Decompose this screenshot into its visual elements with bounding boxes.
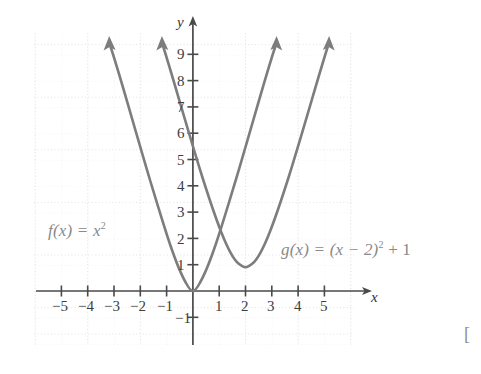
curve-label-f-exponent: 2	[101, 220, 106, 231]
y-tick-label-4: 4	[177, 179, 185, 194]
curve-label-f-head: f(x) = x	[48, 221, 101, 240]
curve-label-g-tail: + 1	[384, 240, 411, 259]
x-tick-label-2: 2	[241, 299, 249, 314]
y-tick-label-3: 3	[177, 205, 185, 220]
curve-label-g: g(x) = (x − 2)2 + 1	[281, 241, 411, 258]
x-tick-label--1: −1	[157, 299, 173, 314]
curve-label-g-head: g(x) = (x − 2)	[281, 240, 378, 259]
x-axis-label: x	[371, 290, 378, 305]
x-tick-label--4: −4	[78, 299, 94, 314]
y-tick-label-2: 2	[177, 232, 185, 247]
x-tick-label--2: −2	[130, 299, 146, 314]
x-tick-label--3: −3	[104, 299, 120, 314]
y-tick-label-6: 6	[177, 126, 185, 141]
y-tick-label-9: 9	[177, 47, 185, 62]
page-bracket-mark: [	[464, 325, 470, 343]
graph-figure: y x −5 −4 −3 −2 −1 1 2 3 4 5 −1 1 2 3 4 …	[0, 0, 481, 374]
y-tick-label-1: 1	[177, 258, 185, 273]
x-tick-label-5: 5	[320, 299, 328, 314]
x-tick-label-3: 3	[267, 299, 275, 314]
x-tick-label-1: 1	[215, 299, 223, 314]
x-tick-label-4: 4	[294, 299, 302, 314]
coordinate-plane-svg	[0, 0, 481, 374]
y-tick-label-8: 8	[177, 74, 185, 89]
y-tick-label-5: 5	[177, 153, 185, 168]
x-tick-label--5: −5	[52, 299, 68, 314]
y-tick-label-7: 7	[177, 100, 185, 115]
y-tick-label--1: −1	[175, 311, 191, 326]
curve-label-f: f(x) = x2	[48, 222, 106, 239]
y-axis-label: y	[177, 15, 184, 30]
